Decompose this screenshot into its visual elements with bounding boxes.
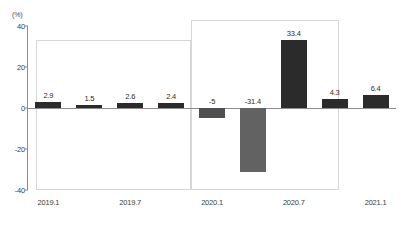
bar-value-label: 33.4 [274,29,314,38]
bar-value-label: 2.4 [151,92,191,101]
bar[interactable] [322,99,348,108]
y-axis-tick-label: -40 [15,186,25,195]
bar[interactable] [117,103,143,108]
x-axis-tick-label: 2021.1 [365,198,387,207]
y-axis-tick-label: -20 [15,145,25,154]
y-axis-tick-label: 20 [17,63,25,72]
bar-value-label: -31.4 [233,97,273,106]
x-axis-tick-label: 2019.7 [119,198,141,207]
bar[interactable] [35,102,61,108]
bar-value-label: 6.4 [356,84,396,93]
x-axis-tick-label: 2020.7 [283,198,305,207]
bar-value-label: 4.3 [315,88,355,97]
bar-value-label: 2.9 [28,91,68,100]
bar[interactable] [158,103,184,108]
bar[interactable] [76,105,102,108]
plot-area: 2.91.52.62.4-5-31.433.44.36.4 [28,26,396,190]
bar-value-label: 1.5 [69,94,109,103]
bar-value-label: 2.6 [110,92,150,101]
bar[interactable] [199,108,225,118]
bar[interactable] [363,95,389,108]
period-box [36,40,191,190]
bar[interactable] [240,108,266,172]
x-axis-tick-label: 2019.1 [38,198,60,207]
bar[interactable] [281,40,307,108]
y-axis-unit-label: (%) [12,11,22,18]
x-axis-tick-label: 2020.1 [201,198,223,207]
y-axis-tick-label: 0 [21,104,25,113]
bar-value-label: -5 [192,97,232,106]
y-axis-tick-label: 40 [17,22,25,31]
bar-chart: (%) 40200-20-40 2.91.52.62.4-5-31.433.44… [0,0,403,225]
